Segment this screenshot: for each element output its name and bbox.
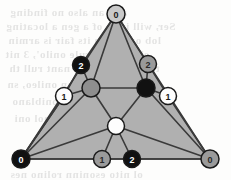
interior-node-black[interactable] [137,79,155,97]
vertex-bottom-left[interactable]: 0 [12,150,30,168]
edge-node-right-one[interactable]: 1 [160,88,177,105]
edge-node-left-one[interactable]: 1 [56,88,73,105]
vertex-bottom-right[interactable]: 0 [201,150,219,168]
simplex-graph: 000221112 [0,0,231,180]
interior-node-black-circle[interactable] [137,79,155,97]
face-outer-triangle [21,14,210,159]
figure-container: and an also no findingSer, will it be of… [0,0,231,180]
vertex-bottom-right-circle[interactable] [201,150,219,168]
edge-node-bottom-two[interactable]: 2 [124,151,141,168]
vertex-bottom-left-circle[interactable] [12,150,30,168]
edge-node-bottom-one-circle[interactable] [94,151,111,168]
edge-node-right-two[interactable]: 2 [140,56,157,73]
edge-node-right-one-circle[interactable] [160,88,177,105]
interior-node-gray-circle[interactable] [82,79,100,97]
vertex-top-apex[interactable]: 0 [107,5,125,23]
vertex-top-apex-circle[interactable] [107,5,125,23]
interior-node-gray[interactable] [82,79,100,97]
edge-node-left-two-circle[interactable] [73,57,90,74]
faces-group [21,14,210,159]
edge-node-left-two[interactable]: 2 [73,57,90,74]
edge-node-left-one-circle[interactable] [56,88,73,105]
edge-node-bottom-two-circle[interactable] [124,151,141,168]
edge-node-bottom-one[interactable]: 1 [94,151,111,168]
interior-node-white[interactable] [108,118,125,135]
interior-node-white-circle[interactable] [108,118,125,135]
edge-node-right-two-circle[interactable] [140,56,157,73]
